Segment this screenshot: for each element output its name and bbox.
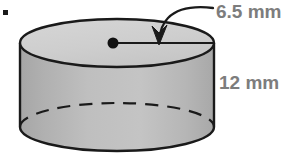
center-point — [108, 38, 119, 49]
radius-dimension-label: 6.5 mm — [216, 2, 281, 21]
height-dimension-label: 12 mm — [219, 73, 279, 92]
bullet-dot — [3, 10, 8, 15]
cylinder-figure: 6.5 mm 12 mm — [0, 0, 290, 160]
